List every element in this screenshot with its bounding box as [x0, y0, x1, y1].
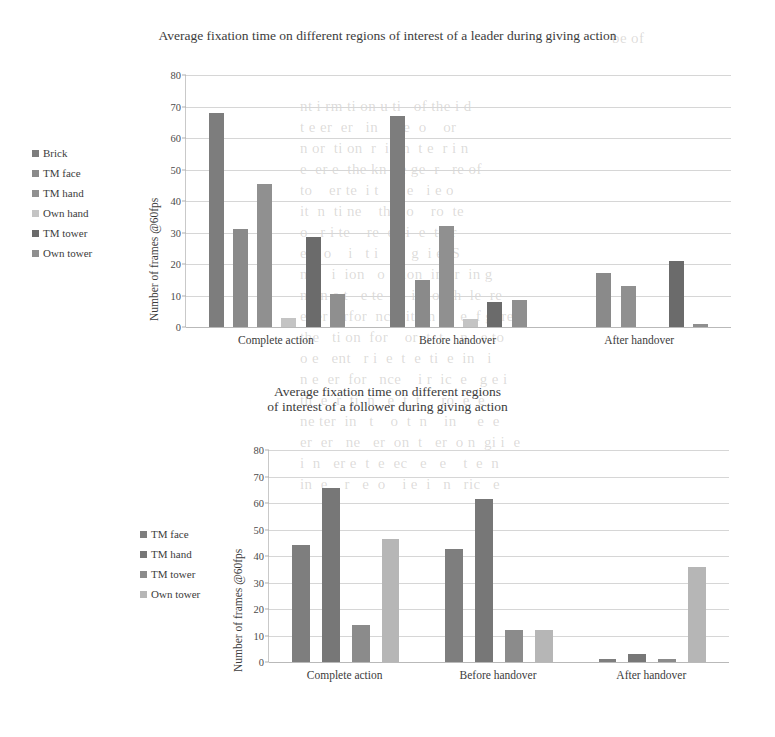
y-tick-mark — [265, 556, 269, 557]
legend-label: TM hand — [43, 183, 84, 203]
y-tick-mark — [265, 662, 269, 663]
gridline — [186, 170, 731, 171]
x-category-label: Complete action — [238, 334, 314, 346]
y-tick-mark — [182, 75, 186, 76]
bar — [415, 280, 430, 327]
legend-item: TM face — [32, 163, 92, 183]
bar — [233, 229, 248, 327]
legend-swatch-icon — [140, 531, 147, 538]
y-tick-label: 40 — [254, 551, 265, 562]
x-category-label: After handover — [616, 669, 686, 681]
bar — [693, 324, 708, 327]
y-tick-mark — [265, 582, 269, 583]
bar — [463, 319, 478, 327]
legend-item: TM tower — [140, 564, 200, 584]
legend-label: Own tower — [43, 243, 92, 263]
bar — [628, 654, 646, 662]
legend-item: TM tower — [32, 223, 92, 243]
chart-leader-plot-area: 01020304050607080 — [185, 75, 731, 327]
chart-follower-plot-area: 01020304050607080 — [268, 450, 729, 662]
legend-swatch-icon — [140, 591, 147, 598]
legend-item: TM hand — [140, 544, 200, 564]
bar — [505, 630, 523, 662]
legend-label: TM face — [151, 524, 189, 544]
legend-label: TM tower — [151, 564, 195, 584]
gridline — [269, 450, 729, 451]
bar — [688, 567, 706, 662]
y-tick-label: 60 — [171, 133, 182, 144]
legend-label: TM hand — [151, 544, 192, 564]
x-category-label: Complete action — [307, 669, 383, 681]
gridline — [269, 662, 729, 663]
y-tick-label: 60 — [254, 498, 265, 509]
chart-follower-legend: TM faceTM handTM towerOwn tower — [140, 524, 200, 604]
x-category-label: After handover — [604, 334, 674, 346]
chart-follower: Average fixation time on different regio… — [0, 384, 775, 704]
y-tick-mark — [182, 232, 186, 233]
legend-item: Own hand — [32, 203, 92, 223]
y-tick-mark — [265, 529, 269, 530]
y-tick-label: 0 — [176, 322, 181, 333]
legend-swatch-icon — [140, 571, 147, 578]
y-tick-mark — [182, 106, 186, 107]
bar — [487, 302, 502, 327]
gridline — [186, 75, 731, 76]
y-tick-label: 30 — [254, 577, 265, 588]
bar — [306, 237, 321, 327]
chart-leader-title: Average fixation time on different regio… — [0, 28, 775, 43]
bar — [535, 630, 553, 662]
y-tick-label: 80 — [254, 445, 265, 456]
bar — [292, 545, 310, 662]
y-tick-mark — [265, 476, 269, 477]
y-tick-mark — [182, 138, 186, 139]
legend-item: Own tower — [32, 243, 92, 263]
y-tick-label: 20 — [171, 259, 182, 270]
bar — [382, 539, 400, 662]
legend-swatch-icon — [32, 190, 39, 197]
bar — [322, 488, 340, 662]
gridline — [186, 327, 731, 328]
chart-leader: Average fixation time on different regio… — [0, 28, 775, 353]
bar — [596, 273, 611, 327]
legend-label: Brick — [43, 143, 67, 163]
bar — [209, 113, 224, 327]
y-tick-mark — [182, 201, 186, 202]
bar — [599, 659, 617, 662]
legend-label: TM tower — [43, 223, 87, 243]
legend-swatch-icon — [140, 551, 147, 558]
legend-swatch-icon — [32, 250, 39, 257]
bar — [621, 286, 636, 327]
y-tick-mark — [182, 295, 186, 296]
x-category-label: Before handover — [460, 669, 537, 681]
chart-follower-title-line1: Average fixation time on different regio… — [0, 384, 775, 399]
bar — [257, 184, 272, 327]
gridline — [186, 107, 731, 108]
y-tick-mark — [265, 609, 269, 610]
chart-follower-title-line2: of interest of a follower during giving … — [0, 399, 775, 414]
gridline — [186, 138, 731, 139]
y-tick-mark — [265, 450, 269, 451]
bar — [512, 300, 527, 327]
legend-item: TM face — [140, 524, 200, 544]
bar — [281, 318, 296, 327]
y-tick-label: 0 — [259, 657, 264, 668]
y-tick-label: 50 — [171, 164, 182, 175]
y-tick-label: 10 — [171, 290, 182, 301]
y-tick-label: 50 — [254, 524, 265, 535]
legend-label: TM face — [43, 163, 81, 183]
legend-label: Own tower — [151, 584, 200, 604]
y-tick-mark — [182, 327, 186, 328]
y-tick-mark — [182, 169, 186, 170]
legend-item: Brick — [32, 143, 92, 163]
bar — [669, 261, 684, 327]
chart-leader-legend: BrickTM faceTM handOwn handTM towerOwn t… — [32, 143, 92, 263]
legend-swatch-icon — [32, 230, 39, 237]
y-tick-label: 20 — [254, 604, 265, 615]
legend-item: TM hand — [32, 183, 92, 203]
bar — [390, 116, 405, 327]
y-tick-label: 70 — [171, 101, 182, 112]
bar — [352, 625, 370, 662]
chart-leader-y-axis-title: Number of frames @60fps — [148, 198, 160, 321]
y-tick-label: 80 — [171, 70, 182, 81]
bar — [439, 226, 454, 327]
